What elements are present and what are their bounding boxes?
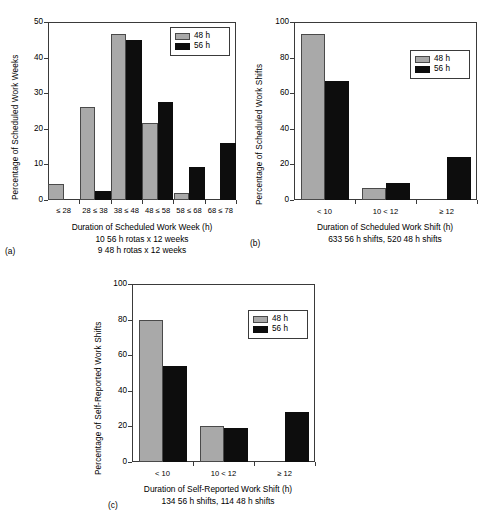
y-tick-mark [290,200,294,201]
bar-56h [158,102,174,200]
y-tick-label: 10 [17,160,43,168]
bar-56h [126,40,142,200]
y-tick-label: 50 [17,18,43,26]
x-tick-mark [355,200,356,204]
x-tick-label: 10 < 12 [194,470,254,478]
x-tick-mark [416,200,417,204]
x-tick-mark [79,200,80,204]
y-tick-mark [128,462,132,463]
legend-a: 48 h 56 h [170,27,230,56]
x-tick-label: < 10 [295,208,355,216]
y-tick-mark [44,129,48,130]
y-tick-label: 100 [101,280,127,288]
y-axis-label-c: Percentage of Self-Reported Work Shifts [94,321,103,475]
y-tick-label: 100 [263,18,289,26]
legend-swatch-56h-icon [415,66,430,73]
legend-item-48h: 48 h [253,315,302,324]
legend-item-56h: 56 h [253,325,302,334]
legend-item-48h: 48 h [175,32,224,41]
x-tick-mark [236,200,237,204]
y-tick-mark [290,129,294,130]
x-tick-label: 10 < 12 [356,208,416,216]
x-tick-label: < 10 [133,470,193,478]
bar-56h [95,191,111,200]
x-tick-label: 68 ≤ 78 [197,207,243,215]
y-tick-mark [44,164,48,165]
y-tick-mark [128,284,132,285]
y-tick-mark [128,426,132,427]
x-axis-title-line2-c: 134 56 h shifts, 114 48 h shifts [93,496,343,508]
x-tick-label: ≥ 12 [417,208,477,216]
legend-item-56h: 56 h [415,65,464,74]
x-tick-label: ≥ 12 [255,470,315,478]
bar-48h [174,193,190,200]
y-tick-label: 0 [101,458,127,466]
x-tick-mark [477,200,478,204]
bar-56h [325,81,349,200]
y-tick-mark [128,355,132,356]
bar-56h [447,157,471,200]
y-tick-mark [128,320,132,321]
legend-swatch-48h-icon [253,316,268,323]
x-axis-title-c: Duration of Self-Reported Work Shift (h)… [93,484,343,507]
legend-item-56h: 56 h [175,42,224,51]
y-tick-label: 80 [101,316,127,324]
y-tick-label: 0 [17,196,43,204]
x-tick-mark [254,462,255,466]
x-axis-title-line2-a: 10 56 h rotas x 12 weeks [22,234,262,246]
bar-48h [48,184,64,200]
legend-label-56h: 56 h [434,65,450,73]
y-tick-mark [290,164,294,165]
bar-48h [301,34,325,200]
bar-48h [142,123,158,200]
y-tick-label: 0 [263,196,289,204]
y-tick-label: 40 [263,125,289,133]
y-tick-label: 20 [263,160,289,168]
panel-letter-b: (b) [250,238,260,248]
y-axis-label-b: Percentage of Scheduled Work Shifts [255,64,264,205]
bar-56h [189,167,205,200]
bar-56h [224,428,248,462]
x-axis-title-line2-b: 633 56 h shifts, 520 48 h shifts [265,234,484,246]
x-tick-mark [315,462,316,466]
x-axis-title-line3-a: 9 48 h rotas x 12 weeks [22,245,262,257]
x-tick-mark [205,200,206,204]
legend-c: 48 h 56 h [248,310,308,339]
y-tick-label: 80 [263,54,289,62]
legend-swatch-56h-icon [253,326,268,333]
legend-label-48h: 48 h [194,32,210,40]
bar-48h [139,320,163,462]
y-tick-label: 40 [17,54,43,62]
y-tick-label: 20 [17,125,43,133]
legend-label-56h: 56 h [272,325,288,333]
legend-swatch-48h-icon [175,33,190,40]
legend-swatch-48h-icon [415,56,430,63]
y-tick-mark [128,391,132,392]
bar-56h [220,143,236,200]
x-tick-mark [193,462,194,466]
y-tick-mark [290,58,294,59]
y-tick-mark [290,93,294,94]
x-axis-title-line1-a: Duration of Scheduled Work Week (h) [22,222,262,234]
x-axis-title-b: Duration of Scheduled Work Shift (h) 633… [265,222,484,245]
bar-48h [80,107,96,200]
panel-letter-c: (c) [108,500,118,510]
x-axis-title-a: Duration of Scheduled Work Week (h) 10 5… [22,222,262,257]
y-tick-label: 30 [17,89,43,97]
x-tick-mark [142,200,143,204]
panel-letter-a: (a) [5,246,15,256]
y-tick-label: 20 [101,422,127,430]
y-tick-mark [44,22,48,23]
y-tick-label: 40 [101,387,127,395]
x-tick-mark [173,200,174,204]
bar-48h [111,34,127,200]
legend-label-48h: 48 h [272,315,288,323]
bar-56h [386,183,410,200]
y-tick-mark [290,22,294,23]
legend-item-48h: 48 h [415,55,464,64]
legend-b: 48 h 56 h [410,50,470,79]
y-tick-mark [44,93,48,94]
bar-56h [285,412,309,462]
x-axis-title-line1-b: Duration of Scheduled Work Shift (h) [265,222,484,234]
bar-48h [362,188,386,200]
